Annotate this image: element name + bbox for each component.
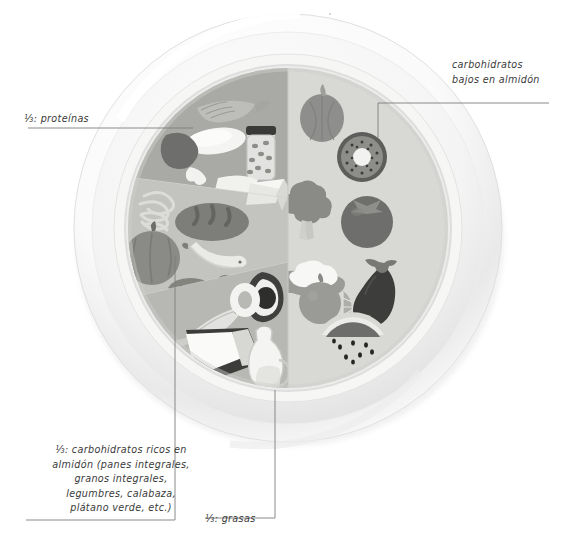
food-tomato <box>341 196 393 248</box>
food-nut <box>230 283 260 317</box>
label-grasas: ⅓: grasas <box>205 512 256 527</box>
food-bread-loaf <box>175 203 249 241</box>
food-kiwi <box>337 132 387 182</box>
speck <box>329 13 331 15</box>
label-carbohidratos-ricos: ⅓: carbohidratos ricos en almidón (panes… <box>26 443 216 516</box>
food-bean-jar <box>246 126 276 180</box>
plate-diagram-figure: ⅓: proteínas carbohidratos bajos en almi… <box>0 0 574 553</box>
label-carbohidratos-bajos: carbohidratos bajos en almidón <box>452 58 540 87</box>
label-proteinas: ⅓: proteínas <box>24 112 89 127</box>
